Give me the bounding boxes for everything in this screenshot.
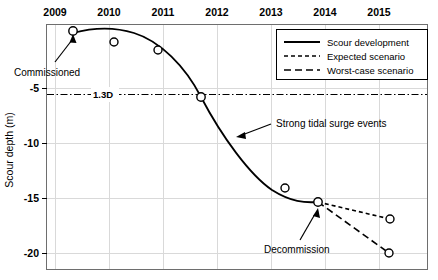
y-axis-tick-labels: -5 -10 -15 -20: [24, 82, 39, 259]
x-tick-2014: 2014: [313, 6, 337, 18]
x-tick-2011: 2011: [152, 6, 175, 18]
legend-label-worst-case-scenario: Worst-case scenario: [327, 65, 413, 76]
data-point-expected-end: [386, 215, 394, 223]
data-point-2011-5: [197, 93, 205, 101]
data-point-commissioned: [69, 27, 77, 35]
data-point-2011: [154, 46, 162, 54]
scour-depth-chart: 2009 2010 2011 2012 2013 2014 2015 -5 -1…: [0, 0, 438, 280]
x-tick-2013: 2013: [259, 6, 283, 18]
y-tick-minus20: -20: [24, 247, 39, 259]
data-point-decommission: [314, 198, 322, 206]
data-point-worst-case-end: [385, 249, 393, 257]
x-axis-tick-labels: 2009 2010 2011 2012 2013 2014 2015: [43, 6, 391, 18]
x-tick-2009: 2009: [43, 6, 67, 18]
y-tick-minus5: -5: [30, 82, 39, 94]
y-tick-minus10: -10: [24, 137, 39, 149]
chart-canvas: 2009 2010 2011 2012 2013 2014 2015 -5 -1…: [0, 0, 438, 280]
y-axis-title: Scour depth (m): [3, 112, 15, 187]
x-tick-2010: 2010: [97, 6, 121, 18]
data-point-2014: [281, 184, 289, 192]
x-tick-2012: 2012: [205, 6, 229, 18]
data-point-2010: [110, 38, 118, 46]
legend-label-scour-development: Scour development: [327, 37, 409, 48]
threshold-label: 1.3D: [93, 89, 113, 100]
annotation-decommission-label: Decommission: [264, 244, 330, 255]
annotation-strong-tidal-surge-label: Strong tidal surge events: [276, 118, 387, 129]
y-tick-minus15: -15: [24, 192, 39, 204]
legend: Scour development Expected scenario Wors…: [277, 30, 428, 80]
annotation-commissioned-label: Commissioned: [14, 67, 80, 78]
legend-label-expected-scenario: Expected scenario: [327, 51, 405, 62]
x-tick-2015: 2015: [367, 6, 391, 18]
